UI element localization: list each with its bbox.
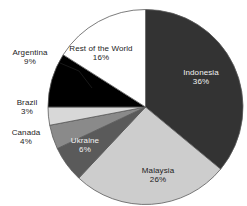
slice-label-canada: Canada 4%	[2, 128, 50, 146]
slice-label-brazil: Brazil 3%	[4, 98, 50, 116]
slice-label-malaysia: Malaysia 26%	[125, 166, 191, 184]
slice-label-malaysia-value: 26%	[125, 175, 191, 184]
slice-label-ukraine-name: Ukraine	[58, 136, 112, 145]
slice-label-rest-of-the-world-value: 16%	[58, 53, 144, 62]
slice-label-rest-of-the-world: Rest of the World 16%	[58, 44, 144, 62]
slice-label-indonesia-value: 36%	[170, 77, 232, 86]
slice-label-canada-name: Canada	[2, 128, 50, 137]
slice-label-ukraine-value: 6%	[58, 145, 112, 154]
slice-label-brazil-value: 3%	[4, 107, 50, 116]
slice-label-ukraine: Ukraine 6%	[58, 136, 112, 154]
pie-chart: Indonesia 36% Malaysia 26% Ukraine 6% Ca…	[0, 0, 247, 206]
slice-label-argentina-value: 9%	[0, 57, 60, 66]
slice-label-argentina: Argentina 9%	[0, 48, 60, 66]
slice-label-rest-of-the-world-name: Rest of the World	[58, 44, 144, 53]
slice-label-brazil-name: Brazil	[4, 98, 50, 107]
slice-label-argentina-name: Argentina	[0, 48, 60, 57]
slice-label-canada-value: 4%	[2, 137, 50, 146]
slice-label-indonesia-name: Indonesia	[170, 68, 232, 77]
slice-label-malaysia-name: Malaysia	[125, 166, 191, 175]
slice-label-indonesia: Indonesia 36%	[170, 68, 232, 86]
